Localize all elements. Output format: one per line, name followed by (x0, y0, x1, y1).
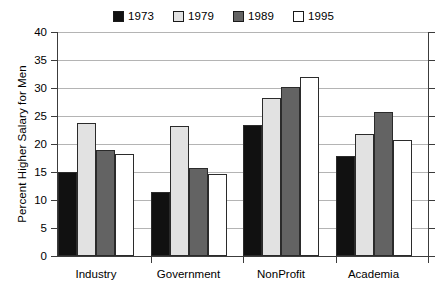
bar (336, 156, 355, 256)
x-axis-group-tick (336, 257, 337, 263)
y-axis-tick-right (429, 32, 435, 33)
y-axis-tick (51, 144, 57, 145)
legend-entry: 1973 (113, 11, 154, 22)
y-axis-tick-label: 20 (23, 139, 47, 149)
legend-label: 1973 (128, 11, 154, 22)
bar (151, 192, 170, 256)
y-axis-tick (51, 32, 57, 33)
bar (77, 123, 96, 256)
y-axis-tick-right (429, 228, 435, 229)
bar (355, 134, 374, 256)
legend-entry: 1989 (233, 11, 274, 22)
legend-swatch (233, 11, 244, 22)
bar (374, 112, 393, 256)
y-axis-tick-label: 40 (23, 27, 47, 37)
y-axis-tick-label: 35 (23, 55, 47, 65)
y-axis-tick (51, 60, 57, 61)
bar (243, 125, 262, 256)
y-axis-tick-label: 10 (23, 195, 47, 205)
x-axis-category-label: Academia (329, 268, 419, 280)
gridline (58, 116, 428, 117)
y-axis-tick (51, 88, 57, 89)
bar (262, 98, 281, 256)
x-axis-group-tick (151, 257, 152, 263)
x-axis-group-tick (243, 257, 244, 263)
bar (300, 77, 319, 256)
y-axis-tick-right (429, 172, 435, 173)
legend-entry: 1979 (173, 11, 214, 22)
y-axis-tick-right (429, 88, 435, 89)
bar-chart-figure: 1973197919891995 Percent Higher Salary f… (0, 0, 447, 284)
y-axis-tick-label: 5 (23, 223, 47, 233)
y-axis-tick-label: 0 (23, 251, 47, 261)
legend-swatch (113, 11, 124, 22)
y-axis-tick-right (429, 116, 435, 117)
bar (393, 140, 412, 256)
y-axis-tick-right (429, 144, 435, 145)
y-axis-tick-right (429, 200, 435, 201)
x-axis-category-label: Industry (51, 268, 141, 280)
legend-label: 1995 (308, 11, 334, 22)
y-axis-tick-label: 30 (23, 83, 47, 93)
legend-label: 1989 (248, 11, 274, 22)
x-axis-category-label: NonProfit (236, 268, 326, 280)
plot-area: 0510152025303540IndustryGovernmentNonPro… (58, 32, 428, 256)
x-axis-category-label: Government (144, 268, 234, 280)
y-axis-tick (51, 172, 57, 173)
y-axis-tick-right (429, 256, 435, 257)
y-axis-tick (51, 116, 57, 117)
bar (281, 87, 300, 256)
legend-label: 1979 (188, 11, 214, 22)
y-axis-tick (51, 256, 57, 257)
legend-swatch (293, 11, 304, 22)
y-axis-tick-label: 25 (23, 111, 47, 121)
chart-legend: 1973197919891995 (0, 8, 447, 24)
bar (208, 174, 227, 256)
gridline (58, 32, 428, 33)
y-axis-tick-right (429, 60, 435, 61)
y-axis-tick (51, 200, 57, 201)
bar (96, 150, 115, 256)
bar (189, 168, 208, 256)
y-axis-tick (51, 228, 57, 229)
gridline (58, 88, 428, 89)
bar (170, 126, 189, 256)
bar (58, 172, 77, 256)
bar (115, 154, 134, 256)
y-axis-tick-label: 15 (23, 167, 47, 177)
legend-entry: 1995 (293, 11, 334, 22)
gridline (58, 60, 428, 61)
x-axis-group-tick (428, 257, 429, 263)
legend-swatch (173, 11, 184, 22)
